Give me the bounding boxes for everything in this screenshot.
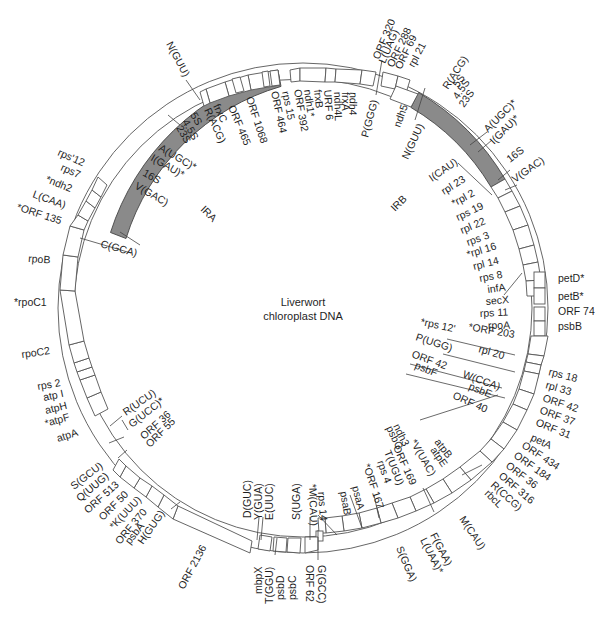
gene-label: M(CAU) xyxy=(457,513,488,551)
labels-bottom-right-inside: atpB atpE *V(UAC) ndh3 psbG ORF 169 T(UG… xyxy=(241,422,455,526)
gene-label: psaB xyxy=(338,490,354,516)
gene-label: G(GCC) xyxy=(316,565,328,604)
map-title-line1: Liverwort xyxy=(281,296,326,308)
gene-label: 16S xyxy=(504,144,526,165)
gene-label: D(GUC) xyxy=(241,480,253,518)
gene-label: rpl 20 xyxy=(477,342,506,361)
genome-map: [data-name="inverted-repeat-a"]{display:… xyxy=(0,0,608,619)
gene-label: ndh5 xyxy=(391,102,410,128)
gene-label: T(GGU) xyxy=(263,567,275,604)
gene-label: petD* xyxy=(558,272,584,284)
gene-label: ORF 62 xyxy=(304,565,316,602)
labels-lower-left-inside: ORF 55 ORF 36 G(UCC)* R(UCU) xyxy=(120,386,177,449)
map-title-line2: chloroplast DNA xyxy=(263,310,343,322)
gene-label: E(UUC) xyxy=(263,483,275,520)
gene-label: psbC xyxy=(286,575,298,600)
gene-label: psbB xyxy=(558,320,582,332)
gene-label: mbpX xyxy=(252,567,264,594)
gene-label: Y(GUA) xyxy=(252,483,264,520)
gene-label: ORF 74 xyxy=(558,305,595,317)
gene-label: psbD xyxy=(274,575,286,600)
gene-label: P(GGG) xyxy=(358,98,380,138)
gene-label: *rpoC1 xyxy=(14,296,47,308)
gene-label: ndh4 xyxy=(347,92,360,116)
gene-label: N(GUU) xyxy=(399,121,426,160)
gene-label: petB* xyxy=(558,290,584,302)
gene-label: S(GGA) xyxy=(394,544,420,583)
ir-a-label: IRA xyxy=(199,203,220,224)
gene-label: N(GUU) xyxy=(164,39,192,78)
labels-right-inside: *ORF 203 *rps 12' rpl 20 P(UGG) W(CCA) O… xyxy=(410,315,516,415)
gene-label: *rps 12' xyxy=(420,315,457,334)
ir-b-label: IRB xyxy=(388,193,409,214)
gene-label: rpoB xyxy=(28,252,51,266)
gene-label: S(UGA) xyxy=(290,483,302,520)
gene-label: rpoC2 xyxy=(21,344,51,360)
gene-label: ORF 2136 xyxy=(175,542,208,591)
gene-label: rps 11 xyxy=(479,306,508,319)
gene-label: atpA xyxy=(55,426,79,444)
gene-label: *M(CAU) xyxy=(307,484,320,526)
